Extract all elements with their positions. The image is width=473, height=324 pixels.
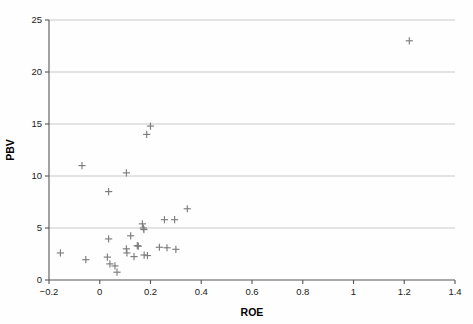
data-point-marker: [78, 162, 85, 169]
data-point-marker: [113, 269, 120, 276]
gridlines: [49, 20, 455, 228]
x-tick-label: 0.6: [245, 286, 258, 297]
data-point-marker: [57, 249, 64, 256]
data-point-marker: [105, 188, 112, 195]
y-tick-label: 25: [31, 14, 42, 25]
x-axis-title: ROE: [241, 306, 264, 318]
data-point-marker: [171, 216, 178, 223]
x-tick-label: 0.2: [144, 286, 157, 297]
data-point-marker: [140, 226, 147, 233]
data-point-marker: [82, 256, 89, 263]
x-axis-ticks: −0.200.20.40.60.811.21.4: [40, 280, 462, 297]
data-point-marker: [130, 253, 137, 260]
scatter-plot-figure: 0510152025−0.200.20.40.60.811.21.4ROEPBV: [0, 0, 473, 324]
data-point-marker: [144, 252, 151, 259]
data-point-marker: [127, 232, 134, 239]
data-point-marker: [123, 169, 130, 176]
y-tick-label: 5: [37, 222, 42, 233]
data-point-marker: [104, 254, 111, 261]
data-points: [57, 37, 413, 276]
y-axis-ticks: 0510152025: [31, 14, 49, 285]
y-tick-label: 20: [31, 66, 42, 77]
data-point-marker: [172, 246, 179, 253]
axes: [49, 20, 455, 280]
data-point-marker: [139, 220, 146, 227]
y-axis-title: PBV: [4, 139, 16, 161]
data-point-marker: [161, 216, 168, 223]
chart-canvas: 0510152025−0.200.20.40.60.811.21.4ROEPBV: [0, 0, 473, 324]
data-point-marker: [163, 244, 170, 251]
x-tick-label: 0.4: [195, 286, 208, 297]
x-tick-label: 1.2: [398, 286, 411, 297]
data-point-marker: [406, 37, 413, 44]
x-tick-label: 0.8: [296, 286, 309, 297]
y-tick-label: 10: [31, 170, 42, 181]
data-point-marker: [123, 249, 130, 256]
x-tick-label: −0.2: [40, 286, 59, 297]
y-tick-label: 0: [37, 274, 42, 285]
data-point-marker: [143, 131, 150, 138]
x-tick-label: 1: [351, 286, 356, 297]
x-tick-label: 0: [97, 286, 102, 297]
data-point-marker: [135, 243, 142, 250]
data-point-marker: [156, 244, 163, 251]
x-tick-label: 1.4: [448, 286, 461, 297]
data-point-marker: [184, 205, 191, 212]
data-point-marker: [105, 235, 112, 242]
y-tick-label: 15: [31, 118, 42, 129]
